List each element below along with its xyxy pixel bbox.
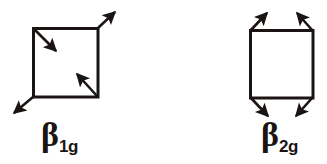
beta-symbol-b1g: β xyxy=(41,116,59,153)
subscript-b2g: 2g xyxy=(279,137,298,156)
figure-beta-2g xyxy=(250,13,313,116)
subscript-b1g: 1g xyxy=(59,137,78,156)
square-outline-b2g xyxy=(251,31,314,99)
bottom-right-inward-arrow-b1g xyxy=(77,74,97,96)
top-right-outward-arrow-b1g xyxy=(98,12,115,28)
top-left-inward-arrow-b1g xyxy=(34,29,56,51)
bottom-left-outward-arrow-b2g xyxy=(250,97,268,116)
top-left-outward-arrow-b2g xyxy=(250,13,267,31)
bottom-left-outward-arrow-b1g xyxy=(14,97,33,113)
top-right-outward-arrow-b2g xyxy=(297,13,313,31)
diagram-canvas: β1g β2g xyxy=(0,0,327,164)
figure-beta-1g xyxy=(14,12,115,113)
mode-label-beta-2g: β2g xyxy=(261,118,298,152)
beta-symbol-b2g: β xyxy=(261,116,279,153)
mode-label-beta-1g: β1g xyxy=(41,118,78,152)
bottom-right-outward-arrow-b2g xyxy=(296,97,313,116)
